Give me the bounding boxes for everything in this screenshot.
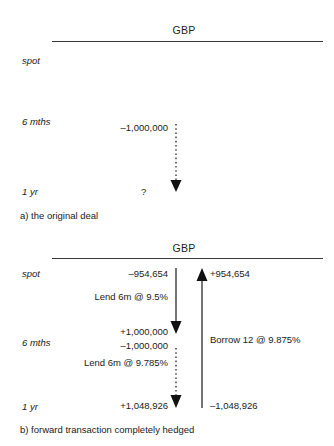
flow-arrow-lend-6m-first <box>171 268 182 334</box>
flow-arrow-lend-6m-second <box>171 348 182 408</box>
caption-original-deal: a) the original deal <box>20 210 98 221</box>
flow-arrows-hedged <box>0 228 334 446</box>
flow-arrow-borrow-12m <box>197 268 208 408</box>
diagram-hedged-transaction: GBP spot 6 mths 1 yr –954,654 Lend 6m @ … <box>0 228 334 446</box>
caption-hedged-transaction: b) forward transaction completely hedged <box>20 424 194 435</box>
diagram-original-deal: GBP spot 6 mths 1 yr –1,000,000 ? a) the… <box>0 0 334 228</box>
flow-arrow-forward-outflow <box>0 0 334 228</box>
